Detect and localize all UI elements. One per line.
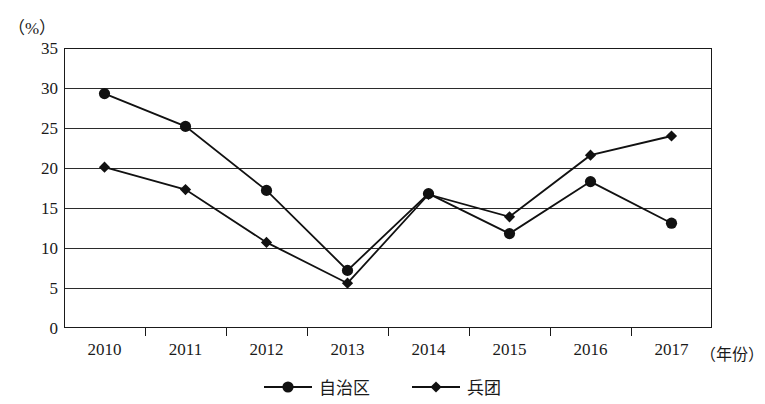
legend-label: 自治区: [319, 374, 370, 399]
x-axis-tick-label: 2013: [331, 340, 365, 360]
legend-diamond-icon: [412, 380, 460, 394]
plot-area: [64, 48, 712, 328]
x-axis-tick: [145, 328, 146, 336]
data-point-marker-diamond: [430, 381, 441, 392]
data-point-marker-diamond: [666, 130, 677, 141]
y-axis-tick-label: 20: [12, 160, 58, 177]
series-1: [99, 88, 677, 276]
x-axis-tick-label: 2010: [88, 340, 122, 360]
data-point-marker-circle: [261, 185, 272, 196]
x-axis-tick-label: 2016: [574, 340, 608, 360]
data-point-marker-circle: [504, 228, 515, 239]
x-axis-tick-label: 2012: [250, 340, 284, 360]
legend-item-1[interactable]: 自治区: [264, 374, 370, 399]
x-axis-tick-label: 2015: [493, 340, 527, 360]
line-chart-figure: （%） 05101520253035 201020112012201320142…: [0, 0, 765, 404]
x-axis-tick-labels: 20102011201220132014201520162017: [64, 340, 712, 366]
x-axis-tick: [388, 328, 389, 336]
y-axis-tick-label: 25: [12, 120, 58, 137]
data-point-marker-circle: [282, 381, 293, 392]
data-point-marker-circle: [342, 265, 353, 276]
y-axis-tick-label: 0: [12, 320, 58, 337]
chart-legend: 自治区兵团: [0, 374, 765, 399]
x-axis-tick-label: 2011: [169, 340, 202, 360]
x-axis-title: （年份）: [700, 341, 764, 365]
series-group: [64, 48, 712, 328]
legend-label: 兵团: [467, 374, 501, 399]
data-point-marker-diamond: [180, 184, 191, 195]
x-axis-ticks: [64, 328, 712, 337]
data-point-marker-circle: [180, 121, 191, 132]
y-axis-tick-label: 10: [12, 240, 58, 257]
data-point-marker-diamond: [261, 237, 272, 248]
x-axis-tick: [550, 328, 551, 336]
series-line: [105, 136, 672, 283]
data-point-marker-circle: [99, 88, 110, 99]
x-axis-tick: [631, 328, 632, 336]
legend-circle-icon: [264, 380, 312, 394]
x-axis-tick: [307, 328, 308, 336]
x-axis-tick: [226, 328, 227, 336]
x-axis-tick-label: 2014: [412, 340, 446, 360]
y-axis-unit-label: （%）: [8, 14, 56, 39]
data-point-marker-circle: [585, 176, 596, 187]
y-axis-tick-label: 5: [12, 280, 58, 297]
data-point-marker-circle: [666, 218, 677, 229]
y-axis-tick-label: 15: [12, 200, 58, 217]
y-axis-tick-label: 35: [12, 40, 58, 57]
x-axis-tick: [469, 328, 470, 336]
series-2: [99, 130, 677, 288]
data-point-marker-diamond: [99, 162, 110, 173]
legend-item-2[interactable]: 兵团: [412, 374, 501, 399]
y-axis-tick-labels: 05101520253035: [8, 48, 58, 328]
x-axis-tick-label: 2017: [655, 340, 689, 360]
y-axis-tick-label: 30: [12, 80, 58, 97]
